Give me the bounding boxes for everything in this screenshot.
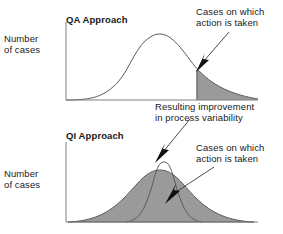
qi-improvement-arrowhead	[155, 143, 169, 163]
qa-y-axis-label: Number of cases	[4, 33, 62, 55]
qa-chart-title: QA Approach	[66, 14, 128, 25]
qa-annotation-cases-on-which-action-is-taken: Cases on which action is taken	[196, 6, 280, 28]
qi-annotation-cases-on-which-action-is-taken: Cases on which action is taken	[196, 142, 280, 164]
qa-callout-arrowhead	[196, 53, 209, 72]
qi-annotation-resulting-improvement: Resulting improvement in process variabi…	[155, 101, 279, 123]
qi-chart-title: QI Approach	[66, 130, 124, 141]
qi-improvement-leader	[163, 119, 190, 152]
qa-distribution-curve	[66, 34, 258, 100]
figure-container: QA Approach Number of cases Cases on whi…	[0, 0, 283, 234]
qi-wide-distribution	[68, 170, 254, 222]
qa-callout-leader	[203, 32, 229, 62]
qa-shaded-tail	[66, 34, 258, 100]
qa-chart	[66, 22, 258, 100]
qi-y-axis-label: Number of cases	[4, 168, 62, 190]
qi-cases-leader	[176, 167, 214, 192]
